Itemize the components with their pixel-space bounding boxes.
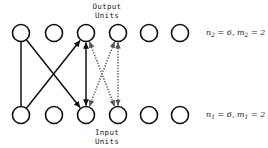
node-output-5 [141,25,158,42]
node-input-6 [172,107,189,124]
node-output-1 [13,25,30,42]
param-bottom-m-equals: = [248,110,260,119]
node-input-3 [78,107,95,124]
param-top-m-value: 2 [260,28,265,37]
edge-layer [21,40,118,108]
param-bottom-n-subscript: 1 [211,113,215,120]
node-layer [13,25,189,124]
node-input-2 [46,107,63,124]
node-input-4 [110,107,127,124]
param-top-n-equals: = [215,28,227,37]
param-bottom-m-value: 2 [260,110,265,119]
param-bottom-n-equals: = [215,110,227,119]
param-top-n-subscript: 2 [211,31,215,38]
node-output-4 [110,25,127,42]
param-top-m-subscript: 2 [245,31,249,38]
input-units-caption: Input Units [62,128,152,146]
node-input-1 [13,107,30,124]
network-diagram-figure: Output Units Input Units n2 = 6, m2 = 2 … [0,0,268,148]
parameter-label-layer-1: n1 = 6, m1 = 2 [206,110,265,119]
param-bottom-m-symbol: m [237,110,245,119]
param-top-m-symbol: m [237,28,245,37]
edge-output4-to-input3 [89,42,114,106]
parameter-label-layer-2: n2 = 6, m2 = 2 [206,28,265,37]
node-output-6 [172,25,189,42]
node-output-3 [78,25,95,42]
param-top-m-equals: = [248,28,260,37]
param-bottom-m-subscript: 1 [245,113,249,120]
node-output-2 [46,25,63,42]
network-graph [0,0,268,148]
node-input-5 [141,107,158,124]
